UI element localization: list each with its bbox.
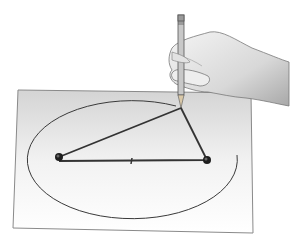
paper-sheet	[13, 90, 253, 233]
pin-left-highlight	[57, 155, 60, 158]
pencil-eraser	[178, 15, 184, 21]
illustration-canvas	[0, 0, 299, 241]
pin-right-highlight	[205, 158, 208, 161]
ellipse-drawing-illustration	[0, 0, 299, 241]
string-knot	[131, 158, 132, 164]
